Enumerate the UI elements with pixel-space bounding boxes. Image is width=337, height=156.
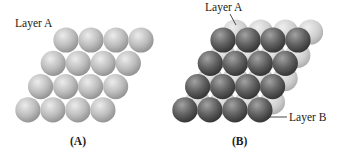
sphere — [103, 27, 128, 52]
sphere — [260, 74, 285, 99]
sphere — [198, 51, 223, 76]
panel-b-layer-b-label: Layer B — [289, 111, 327, 124]
sphere — [223, 51, 248, 76]
sphere — [247, 97, 272, 122]
sphere — [28, 74, 53, 99]
sphere — [78, 27, 103, 52]
sphere — [15, 97, 40, 122]
sphere — [90, 97, 115, 122]
panel-a-layer-a-spheres — [15, 27, 153, 122]
sphere — [235, 27, 260, 52]
sphere — [273, 51, 298, 76]
panel-b-caption: (B) — [232, 135, 248, 148]
sphere-packing-figure: Layer A (A) Layer A Layer B (B) — [0, 0, 337, 156]
sphere — [260, 27, 285, 52]
sphere — [197, 97, 222, 122]
sphere — [65, 97, 90, 122]
sphere — [248, 51, 273, 76]
sphere — [116, 51, 141, 76]
panel-a-caption: (A) — [70, 135, 86, 148]
sphere — [103, 74, 128, 99]
sphere — [40, 97, 65, 122]
panel-a-layer-a-label: Layer A — [15, 17, 53, 30]
sphere — [185, 74, 210, 99]
sphere — [235, 74, 260, 99]
sphere — [210, 27, 235, 52]
sphere — [285, 27, 310, 52]
sphere — [210, 74, 235, 99]
sphere — [66, 51, 91, 76]
sphere — [91, 51, 116, 76]
panel-b-layer-a-label: Layer A — [205, 1, 243, 14]
sphere — [172, 97, 197, 122]
sphere — [222, 97, 247, 122]
sphere — [128, 27, 153, 52]
sphere — [53, 74, 78, 99]
sphere — [78, 74, 103, 99]
panel-a: Layer A (A) — [15, 17, 154, 148]
sphere — [53, 27, 78, 52]
sphere — [41, 51, 66, 76]
panel-b: Layer A Layer B (B) — [172, 1, 326, 148]
